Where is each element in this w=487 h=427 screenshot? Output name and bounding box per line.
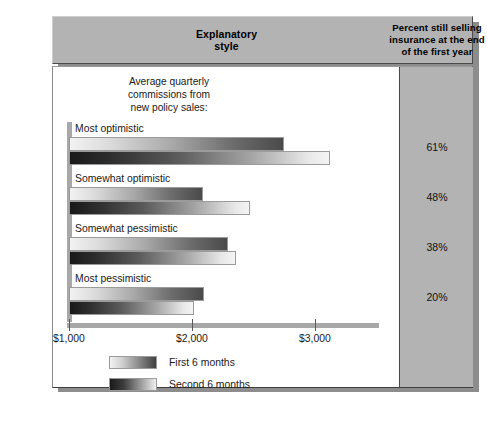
caption-line3: new policy sales:: [130, 102, 207, 113]
category-label-most-optimistic: Most optimistic: [75, 123, 144, 134]
legend-label-second-6-months: Second 6 months: [169, 379, 250, 390]
legend-item-first-6-months: First 6 months: [109, 355, 235, 369]
percent-title-line2: insurance at the end: [389, 34, 484, 45]
percent-title-line3: of the first year: [402, 46, 473, 57]
percent-value-somewhat-pessimistic: 38%: [400, 241, 474, 253]
percent-value-most-pessimistic: 20%: [400, 291, 474, 303]
percent-column-title: Percent still selling insurance at the e…: [389, 22, 484, 59]
plot-caption: Average quarterly commissions from new p…: [89, 75, 249, 115]
axis-tick-1000: [69, 319, 70, 331]
bar-most-optimistic-first-6-months: [69, 137, 284, 151]
bar-somewhat-optimistic-second-6-months: [69, 201, 250, 215]
plot-area: Average quarterly commissions from new p…: [53, 67, 399, 387]
bar-somewhat-pessimistic-second-6-months: [69, 251, 236, 265]
chart-figure: Explanatory style Percent still selling …: [0, 0, 487, 427]
percent-value-most-optimistic: 61%: [400, 141, 474, 153]
category-label-most-pessimistic: Most pessimistic: [75, 273, 151, 284]
bar-most-pessimistic-first-6-months: [69, 287, 204, 301]
legend-swatch-second-6-months: [109, 378, 157, 391]
bar-somewhat-pessimistic-first-6-months: [69, 237, 228, 251]
axis-tick-label-1000: $1,000: [53, 333, 85, 344]
axis-tick-label-2000: $2,000: [176, 333, 208, 344]
caption-line2: commissions from: [128, 89, 210, 100]
header-title-line2: style: [214, 40, 238, 52]
header-title-line1: Explanatory: [196, 28, 257, 40]
header-left-cell: Explanatory style: [53, 17, 400, 63]
legend-swatch-first-6-months: [109, 356, 157, 369]
category-label-somewhat-optimistic: Somewhat optimistic: [75, 173, 170, 184]
legend-label-first-6-months: First 6 months: [169, 357, 235, 368]
bar-somewhat-optimistic-first-6-months: [69, 187, 203, 201]
percent-still-selling-column: 61% 48% 38% 20%: [399, 67, 473, 387]
chart-header-bar: Explanatory style Percent still selling …: [52, 16, 473, 64]
axis-tick-label-3000: $3,000: [299, 333, 331, 344]
category-label-somewhat-pessimistic: Somewhat pessimistic: [75, 223, 178, 234]
axis-tick-2000: [192, 319, 193, 331]
axis-tick-3000: [315, 319, 316, 331]
caption-line1: Average quarterly: [129, 76, 209, 87]
legend-item-second-6-months: Second 6 months: [109, 377, 250, 391]
chart-panel: Average quarterly commissions from new p…: [52, 66, 473, 388]
horizontal-axis-line: [67, 323, 379, 328]
bar-most-optimistic-second-6-months: [69, 151, 330, 165]
percent-value-somewhat-optimistic: 48%: [400, 191, 474, 203]
bar-most-pessimistic-second-6-months: [69, 301, 194, 315]
percent-title-line1: Percent still selling: [392, 22, 482, 33]
explanatory-style-title: Explanatory style: [196, 28, 257, 53]
header-right-cell: Percent still selling insurance at the e…: [400, 17, 474, 63]
